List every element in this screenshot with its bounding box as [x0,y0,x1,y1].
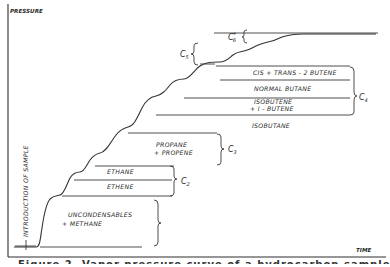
introduction-of-sample-label: INTRODUCTION OF SAMPLE [22,145,29,237]
uncondensables-label: UNCONDENSABLES [68,211,132,218]
normal-butane-label: NORMAL BUTANE [254,85,311,92]
c6-plus-label: C+6 [228,30,237,43]
methane-label: + METHANE [62,220,102,227]
c2-label: C2 [181,177,190,187]
c5-label: C5 [180,50,189,60]
pressure-time-figure: PRESSURE TIME INTRODUCTION OF SAMPLE UNC… [0,0,390,267]
c4-bracket [350,67,357,115]
ethene-label: ETHENE [107,183,134,190]
isobutene-label: ISOBUTENE [254,98,292,105]
propane-label: PROPANE [156,141,187,148]
x-axis-label: TIME [356,247,371,253]
isobutane-label: ISOBUTANE [252,122,290,129]
propene-label: + PROPENE [154,149,193,156]
c2-bracket [170,166,177,196]
c3-label: C3 [228,145,237,155]
y-axis-label: PRESSURE [10,8,43,14]
sample-introduction-marker: INTRODUCTION OF SAMPLE [15,145,36,250]
c5-bracket [191,43,198,65]
cis-trans-2-butene-label: CIS + TRANS - 2 BUTENE [253,69,337,76]
c4-label: C4 [359,93,368,103]
c3-bracket [217,134,224,165]
uncondensables-bracket [154,200,161,246]
1-butene-label: + I - BUTENE [250,105,294,112]
brackets [154,30,357,246]
ethane-label: ETHANE [107,168,134,175]
c6-bracket [242,30,247,43]
